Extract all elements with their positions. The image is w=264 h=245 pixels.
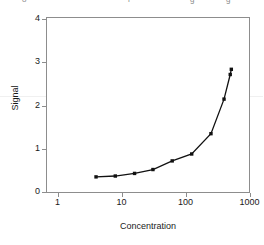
data-point-marker	[94, 175, 97, 178]
y-axis-tick-label: 2	[28, 101, 40, 110]
x-axis-title: Concentration	[46, 221, 250, 231]
header-text-fragment: g	[190, 0, 194, 3]
y-axis-tick-label: 3	[28, 57, 40, 66]
data-point-marker	[229, 73, 232, 76]
data-point-marker	[151, 168, 154, 171]
data-plot-area	[46, 17, 250, 193]
x-axis-tick-mark	[122, 193, 123, 197]
header-text-fragment: g	[226, 0, 230, 3]
data-point-marker	[190, 152, 193, 155]
y-axis-tick-label: 4	[28, 14, 40, 23]
x-axis-tick-mark	[58, 193, 59, 197]
data-point-marker	[133, 172, 136, 175]
x-axis-tick-label: 1	[38, 197, 78, 207]
data-point-marker	[209, 132, 212, 135]
y-axis-tick-label: 1	[28, 144, 40, 153]
x-axis-tick-mark	[186, 193, 187, 197]
data-line-series	[96, 69, 231, 177]
x-axis-tick-label: 1000	[230, 197, 264, 207]
data-point-markers	[94, 68, 233, 179]
data-point-marker	[114, 174, 117, 177]
data-point-marker	[230, 68, 233, 71]
header-text-fragment: r	[128, 0, 131, 3]
x-axis-tick-label: 100	[166, 197, 206, 207]
chart-figure: orgg 01234 Signal 1101001000 Concentrati…	[0, 0, 263, 245]
y-axis-tick-labels: 01234	[26, 0, 40, 245]
x-axis-tick-mark	[250, 193, 251, 197]
y-axis-tick-label: 0	[28, 187, 40, 196]
data-point-marker	[171, 159, 174, 162]
x-axis-tick-label: 10	[102, 197, 142, 207]
data-point-marker	[222, 97, 225, 100]
y-axis-title: Signal	[10, 73, 20, 123]
